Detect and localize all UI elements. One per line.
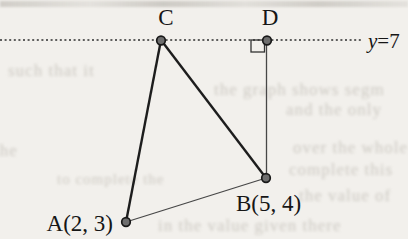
- label-y-equals-7: y=7: [366, 29, 400, 53]
- geometry-figure: C D A(2, 3) B(5, 4) y=7: [0, 0, 408, 239]
- label-y-var: y: [366, 29, 378, 53]
- label-C: C: [158, 5, 173, 30]
- point-A-dot: [122, 218, 131, 227]
- label-B: B(5, 4): [236, 191, 301, 216]
- label-A: A(2, 3): [47, 211, 113, 236]
- segment-CB: [161, 40, 266, 178]
- segment-CA: [126, 40, 161, 222]
- point-B-dot: [262, 174, 271, 183]
- point-C-dot: [157, 36, 166, 45]
- label-D: D: [262, 5, 279, 30]
- scanned-page: the graph shows segm and the only such t…: [0, 0, 408, 239]
- label-y-rest: =7: [377, 29, 399, 53]
- point-D-dot: [263, 36, 272, 45]
